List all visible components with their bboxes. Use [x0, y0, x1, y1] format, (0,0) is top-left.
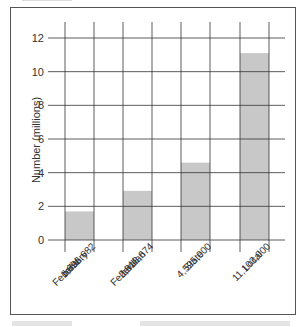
- category-label-0: Federalmilitary1,696,682: [50, 240, 98, 288]
- y-tick-label: 10: [32, 66, 44, 78]
- bar-3: [240, 53, 269, 240]
- y-axis-label: Number (millions): [30, 97, 42, 183]
- bar-0: [65, 211, 94, 240]
- category-label-2: State4,595,000: [174, 240, 214, 280]
- bar-1: [123, 191, 152, 240]
- category-text: 2,918,674: [116, 240, 156, 280]
- y-tick-label: 0: [38, 234, 44, 246]
- category-text: 11,103,000: [230, 240, 273, 283]
- bar-2: [181, 163, 210, 240]
- category-label-3: Local11,103,000: [230, 240, 273, 283]
- category-text: 1,696,682: [58, 240, 98, 280]
- y-tick-label: 12: [32, 32, 44, 44]
- bar-chart: 024681012 Number (millions) Federalmilit…: [0, 0, 304, 327]
- y-tick-label: 2: [38, 200, 44, 212]
- category-text: 4,595,000: [174, 240, 214, 280]
- category-label-1: Federalcivilian2,918,674: [108, 240, 156, 288]
